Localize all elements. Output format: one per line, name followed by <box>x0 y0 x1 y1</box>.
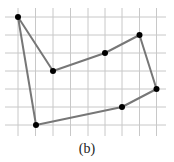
polygon-on-grid-diagram <box>0 0 174 162</box>
vertex-point <box>119 104 125 110</box>
vertex-point <box>102 50 108 56</box>
figure-caption: (b) <box>0 141 174 157</box>
vertex-point <box>137 32 143 38</box>
vertex-point <box>33 122 39 128</box>
grid-lines <box>5 8 166 136</box>
vertex-point <box>15 14 21 20</box>
vertex-point <box>50 68 56 74</box>
vertex-point <box>154 86 160 92</box>
